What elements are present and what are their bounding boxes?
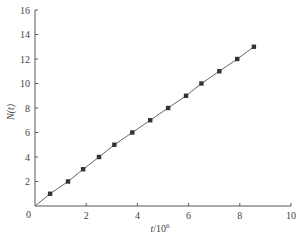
y-tick-label: 2: [25, 176, 30, 187]
x-tick-label: 4: [135, 210, 140, 221]
data-point-marker: [97, 155, 101, 159]
data-point-marker: [112, 143, 116, 147]
x-tick-label: 8: [237, 210, 242, 221]
x-axis-label: t/106: [150, 222, 170, 234]
data-point-marker: [66, 179, 70, 183]
data-point-marker: [217, 69, 221, 73]
data-point-marker: [252, 45, 256, 49]
y-tick-label: 10: [20, 78, 30, 89]
x-tick-label: 6: [186, 210, 191, 221]
y-tick-label: 16: [20, 5, 30, 16]
data-series: [35, 45, 256, 206]
y-tick-label: 8: [25, 103, 30, 114]
x-tick-label: 10: [286, 210, 296, 221]
data-point-marker: [235, 57, 239, 61]
y-tick-label: 4: [25, 152, 30, 163]
y-tick-label: 14: [20, 29, 30, 40]
y-tick-label: 12: [20, 54, 30, 65]
x-tick-label: 2: [84, 210, 89, 221]
y-tick-label: 6: [25, 127, 30, 138]
origin-label: 0: [26, 209, 31, 220]
data-point-marker: [148, 118, 152, 122]
chart: 246810 246810121416 0 t/106 N(t): [0, 0, 306, 245]
data-point-marker: [184, 94, 188, 98]
y-axis-label: N(t): [5, 103, 17, 121]
data-point-marker: [130, 130, 134, 134]
data-point-marker: [199, 81, 203, 85]
data-point-marker: [48, 192, 52, 196]
data-point-marker: [81, 167, 85, 171]
data-point-marker: [166, 106, 170, 110]
